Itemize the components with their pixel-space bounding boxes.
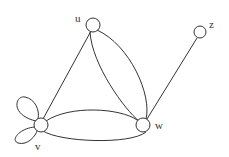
label-u: u — [75, 12, 81, 24]
loop-v-upper — [17, 97, 39, 121]
label-v: v — [35, 140, 41, 152]
edge-v-w-upper — [46, 110, 137, 121]
loop-v-lower — [15, 127, 37, 144]
edge-v-w-lower — [43, 131, 146, 141]
node-v — [34, 118, 48, 132]
graph-diagram: u v w z — [0, 0, 229, 157]
node-z — [194, 26, 206, 38]
label-z: z — [209, 18, 214, 30]
edge-u-w-1 — [90, 32, 139, 121]
node-u — [86, 18, 100, 32]
node-w — [136, 118, 150, 132]
edge-w-z — [147, 38, 197, 119]
edge-u-v — [43, 31, 91, 119]
label-w: w — [155, 119, 163, 131]
